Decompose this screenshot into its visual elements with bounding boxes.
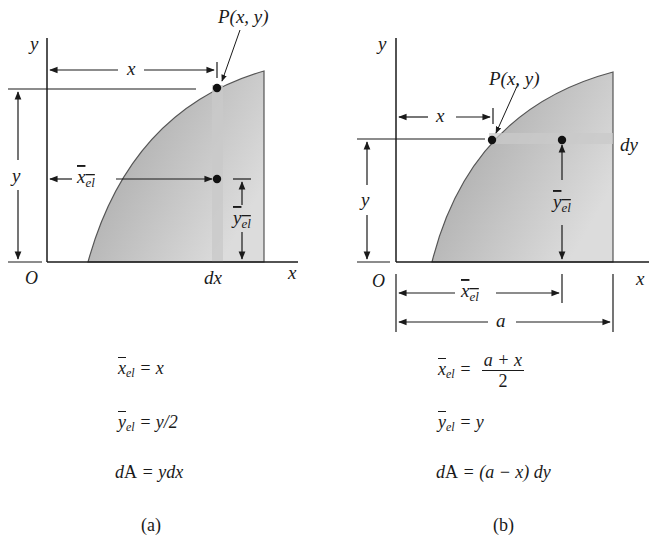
panel-b-xbar-el-label: xel xyxy=(460,280,479,304)
panel-b-strip-label: dy xyxy=(620,134,639,155)
panel-a-eq-ybar: yel = y/2 xyxy=(118,412,178,435)
panel-a-eq-xbar: xel = x xyxy=(118,358,164,381)
panel-b-eq-ybar: yel = y xyxy=(438,412,484,435)
panel-b-origin-label: O xyxy=(372,271,385,291)
panel-a-strip-label: dx xyxy=(204,267,223,288)
panel-a-point-P xyxy=(213,84,221,92)
panel-b-x-axis-label: x xyxy=(635,268,645,289)
panel-a-x-dim-label: x xyxy=(126,58,136,79)
panel-b-eq-xbar: xel = a + x2 xyxy=(438,350,524,391)
panel-a-x-axis-label: x xyxy=(287,262,297,283)
fraction: a + x2 xyxy=(482,350,524,391)
panel-a-eq-dA: dA = ydx xyxy=(115,462,183,483)
centroid-diagram: y x O P(x, y) x y xel yel dx xyxy=(0,0,649,547)
panel-b-strip-dy xyxy=(489,133,613,144)
panel-a-origin-label: O xyxy=(25,268,38,288)
panel-a-caption: (a) xyxy=(141,515,161,536)
panel-a-element-centroid xyxy=(213,175,221,183)
panel-b-x-dim-label: x xyxy=(435,105,445,126)
panel-a-figure xyxy=(8,30,298,262)
panel-a-strip-dx xyxy=(212,85,223,262)
panel-a-xbar-el-label: xel xyxy=(76,166,95,190)
panel-b-caption: (b) xyxy=(493,515,514,536)
panel-b-area xyxy=(432,72,613,262)
panel-a-y-dim-label: y xyxy=(10,165,21,186)
panel-b-point-label: P(x, y) xyxy=(488,68,540,90)
panel-b-y-axis-label: y xyxy=(376,33,387,54)
panel-b-y-dim-label: y xyxy=(359,189,370,210)
panel-a-point-label: P(x, y) xyxy=(217,6,269,28)
panel-b-a-dim-label: a xyxy=(496,310,506,331)
panel-a-area xyxy=(88,71,264,262)
panel-b-element-centroid xyxy=(558,136,566,144)
panel-b-eq-dA: dA = (a − x) dy xyxy=(436,462,551,483)
panel-b-point-P xyxy=(488,136,496,144)
panel-a-y-axis-label: y xyxy=(28,33,39,54)
